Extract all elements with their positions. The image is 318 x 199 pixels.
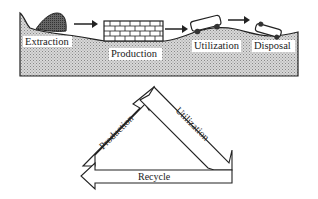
arrow-right-icon (74, 20, 98, 28)
svg-text:Extraction: Extraction (25, 36, 69, 47)
stage-label-utilization: Utilization (192, 40, 241, 52)
stage-label-disposal: Disposal (252, 40, 295, 52)
cycle-label-recycle: Recycle (138, 171, 171, 182)
utilization-arrow (140, 87, 232, 170)
arrow-right-icon (165, 25, 188, 33)
svg-text:Disposal: Disposal (254, 40, 291, 51)
cycle-label-production: Production (97, 113, 136, 152)
svg-text:Production: Production (111, 48, 158, 59)
stage-label-production: Production (109, 48, 162, 60)
arrow-right-icon (228, 16, 250, 24)
svg-text:Utilization: Utilization (194, 40, 240, 51)
ore-mound-icon (36, 13, 66, 31)
stage-label-extraction: Extraction (23, 36, 72, 47)
brick-wall-icon (104, 21, 163, 41)
lifecycle-diagram: Extraction Production Utilization Dispos… (0, 0, 318, 199)
